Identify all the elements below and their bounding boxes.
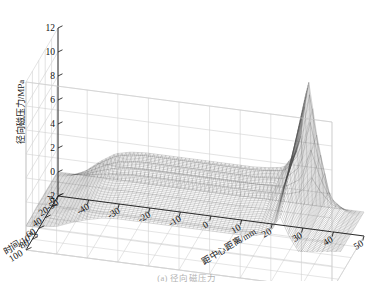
svg-text:2: 2 bbox=[50, 143, 55, 153]
svg-text:径向磁压力/MPa: 径向磁压力/MPa bbox=[15, 80, 26, 145]
svg-text:12: 12 bbox=[46, 23, 56, 33]
svg-text:0: 0 bbox=[50, 167, 55, 177]
svg-text:10: 10 bbox=[46, 47, 56, 57]
figure-caption: (a) 径向磁压力 bbox=[0, 273, 374, 282]
axes-grid-walls bbox=[26, 28, 364, 281]
svg-text:6: 6 bbox=[50, 95, 55, 105]
surface-mesh bbox=[26, 82, 364, 266]
svg-text:4: 4 bbox=[50, 119, 55, 129]
svg-text:8: 8 bbox=[50, 71, 55, 81]
svg-text:-20: -20 bbox=[136, 209, 152, 224]
svg-text:-10: -10 bbox=[167, 213, 183, 228]
